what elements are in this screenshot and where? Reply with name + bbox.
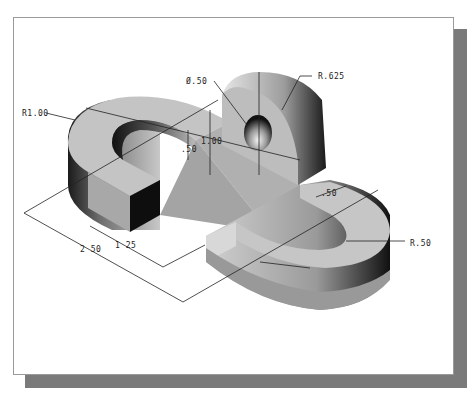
isometric-drawing: R1.00 Ø.50 R.625 1.00 .50 .50 R.50 1 25 … [0, 0, 475, 397]
dim-lug-radius: R.625 [318, 72, 345, 81]
dim-slot-width: .50 [321, 189, 337, 198]
dim-overall-height: 1.00 [201, 137, 222, 146]
dim-slot-radius: R.50 [410, 239, 431, 248]
dim-outer-radius: R1.00 [22, 109, 49, 118]
dim-hole-diameter: Ø.50 [186, 76, 207, 86]
through-hole [244, 115, 272, 151]
dim-leg-length: 1 25 [115, 241, 136, 250]
dim-base-thickness: .50 [181, 145, 197, 154]
dim-overall-length: 2 50 [80, 245, 101, 254]
